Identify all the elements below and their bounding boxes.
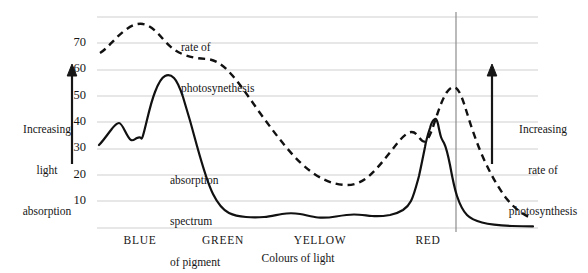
right-axis-label: Increasing rate of photosynthesis xyxy=(500,96,586,245)
left-axis-label-line2: light xyxy=(4,164,90,178)
absorption-spectrum-annotation: absorption spectrum of pigment xyxy=(170,147,220,273)
y-tick-70: 70 xyxy=(60,35,86,50)
left-axis-label-line3: absorption xyxy=(4,205,90,219)
photosynthesis-absorption-chart: 70 60 50 40 30 20 10 BLUE GREEN YELLOW R… xyxy=(0,0,588,273)
y-tick-60: 60 xyxy=(60,61,86,76)
absorption-spectrum-curve xyxy=(99,75,533,226)
absorption-annotation-line1: absorption xyxy=(170,174,220,188)
left-axis-label: Increasing light absorption xyxy=(4,96,90,245)
right-axis-label-line3: photosynthesis xyxy=(500,205,586,219)
rate-annotation-line1: rate of xyxy=(181,41,254,55)
x-category-yellow: YELLOW xyxy=(275,234,365,248)
right-axis-label-line2: rate of xyxy=(500,164,586,178)
rate-annotation-line2: photosynethesis xyxy=(181,82,254,96)
rate-of-photosynthesis-curve xyxy=(100,24,531,218)
left-axis-label-line1: Increasing xyxy=(4,123,90,137)
absorption-annotation-line2: spectrum xyxy=(170,215,220,229)
absorption-annotation-line3: of pigment xyxy=(170,256,220,270)
right-axis-label-line1: Increasing xyxy=(500,123,586,137)
gridlines xyxy=(97,17,538,228)
x-axis-caption: Colours of light xyxy=(228,252,368,266)
rate-of-photosynthesis-annotation: rate of photosynethesis xyxy=(181,14,254,123)
x-category-red: RED xyxy=(383,234,473,248)
